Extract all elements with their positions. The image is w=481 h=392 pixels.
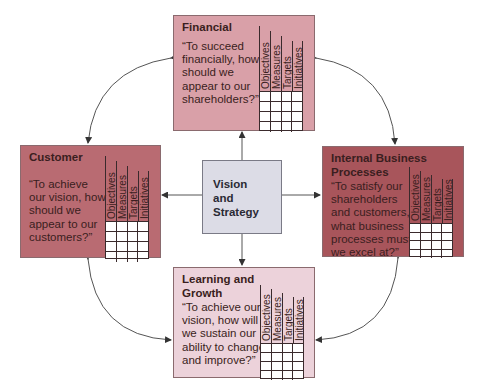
internal-perspective-box: Internal Business Processes “To satisfy … (322, 146, 464, 257)
grid-header-initiatives: Initiatives (294, 299, 305, 341)
learning-title: Learning and Growth (182, 272, 272, 300)
customer-title: Customer (29, 150, 83, 164)
vision-strategy-box: Vision and Strategy (202, 160, 282, 234)
arrow-customer-learning (88, 259, 171, 340)
customer-perspective-box: Customer “To achieve our vision, how sho… (20, 145, 161, 258)
customer-question: “To achieve our vision, how should we ap… (29, 178, 107, 244)
grid-header-initiatives: Initiatives (293, 47, 304, 89)
arrow-financial-customer (88, 58, 171, 143)
grid-header-initiatives: Initiatives (443, 179, 454, 221)
financial-perspective-box: Financial “To succeed financially, how s… (173, 15, 315, 131)
arrow-financial-internal (316, 58, 395, 144)
learning-perspective-box: Learning and Growth “To achieve our visi… (173, 267, 315, 378)
vision-strategy-label: Vision and Strategy (213, 177, 259, 219)
grid-header-initiatives: Initiatives (139, 177, 150, 219)
financial-question: “To succeed financially, how should we a… (182, 40, 262, 106)
arrow-internal-learning (316, 258, 398, 340)
internal-question: “To satisfy our shareholders and custome… (331, 180, 413, 259)
financial-title: Financial (182, 20, 232, 34)
learning-question: “To achieve our vision, how will we sust… (182, 301, 266, 367)
